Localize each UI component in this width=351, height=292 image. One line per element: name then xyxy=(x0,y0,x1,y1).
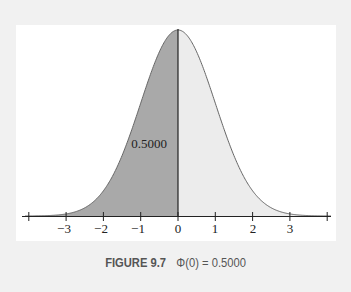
tick-label-3: 3 xyxy=(287,221,294,236)
tick-label-minus-2: −2 xyxy=(94,221,108,236)
tick-label-2: 2 xyxy=(250,221,257,236)
tick-label-minus-3: −3 xyxy=(57,221,71,236)
tick-label-0: 0 xyxy=(175,221,182,236)
unshaded-right-area xyxy=(178,30,331,216)
area-label: 0.5000 xyxy=(131,136,167,151)
figure-number: FIGURE 9.7 xyxy=(105,255,166,270)
tick-label-1: 1 xyxy=(212,221,219,236)
caption-text: Φ(0) = 0.5000 xyxy=(176,255,246,270)
figure-caption: FIGURE 9.7Φ(0) = 0.5000 xyxy=(25,255,327,270)
normal-curve-chart: −3 −2 −1 0 1 2 3 0.5000 xyxy=(0,0,351,292)
shaded-left-area xyxy=(25,30,178,216)
tick-label-minus-1: −1 xyxy=(131,221,145,236)
